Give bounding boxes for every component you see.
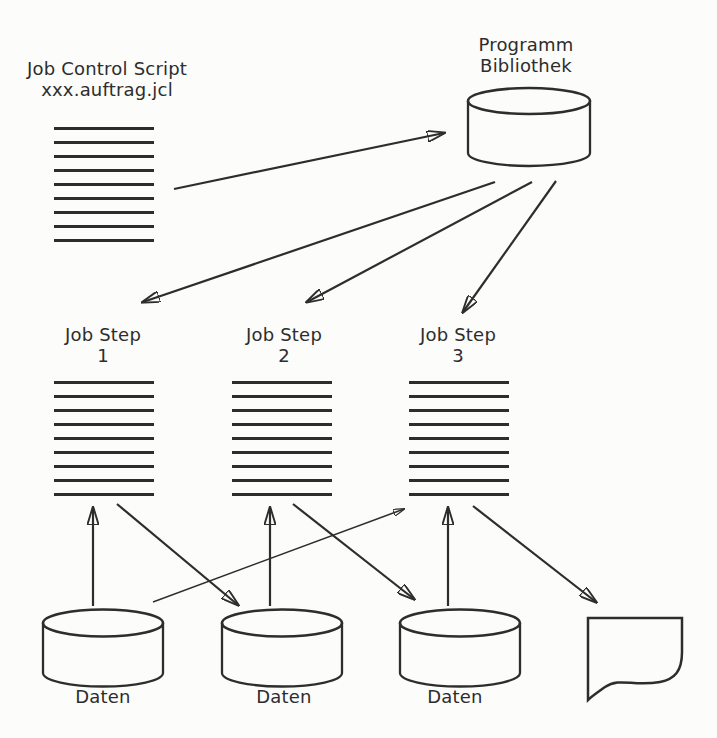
daten-2-label: Daten [224,686,344,707]
job-step-3-label: Job Step 3 [398,324,518,366]
arrow-library-to-jobstep3 [463,181,556,312]
program-library-cylinder [468,88,590,166]
job-step-1-number: 1 [43,345,163,366]
program-library-label: Programm Bibliothek [446,34,606,76]
job-step-2-number: 2 [224,345,344,366]
arrow-library-to-jobstep2 [307,182,532,302]
daten-cylinder-2 [222,610,342,687]
jcl-flow-diagram: Job Control Script xxx.auftrag.jcl Progr… [0,0,717,738]
job-step-3-title: Job Step [398,324,518,345]
job-step-2-title: Job Step [224,324,344,345]
job-control-script-listing [54,127,154,242]
program-library-label-line2: Bibliothek [446,55,606,76]
job-control-script-title: Job Control Script [27,58,187,79]
arrow-library-to-jobstep1 [143,182,495,302]
daten-cylinder-3 [400,610,520,687]
arrow-script-to-library [174,133,444,189]
program-library-label-line1: Programm [446,34,606,55]
arrow-jobstep2-to-daten3 [293,504,414,599]
daten-3-label: Daten [395,686,515,707]
arrow-jobstep1-to-daten2 [117,504,238,605]
daten-cylinder-1 [43,610,163,687]
job-step-3-number: 3 [398,345,518,366]
arrow-jobstep3-to-document [473,506,596,602]
job-step-1-listing [54,381,154,496]
job-control-script-filename: xxx.auftrag.jcl [27,79,187,100]
document-shape [588,618,682,700]
job-step-1-label: Job Step 1 [43,324,163,366]
job-control-script-label: Job Control Script xxx.auftrag.jcl [27,58,187,100]
job-step-1-title: Job Step [43,324,163,345]
diagram-artwork [0,0,717,738]
arrow-daten1-to-jobstep3-thin [153,509,404,602]
daten-1-label: Daten [43,686,163,707]
job-step-2-listing [232,381,332,496]
job-step-2-label: Job Step 2 [224,324,344,366]
job-step-3-listing [409,381,509,496]
